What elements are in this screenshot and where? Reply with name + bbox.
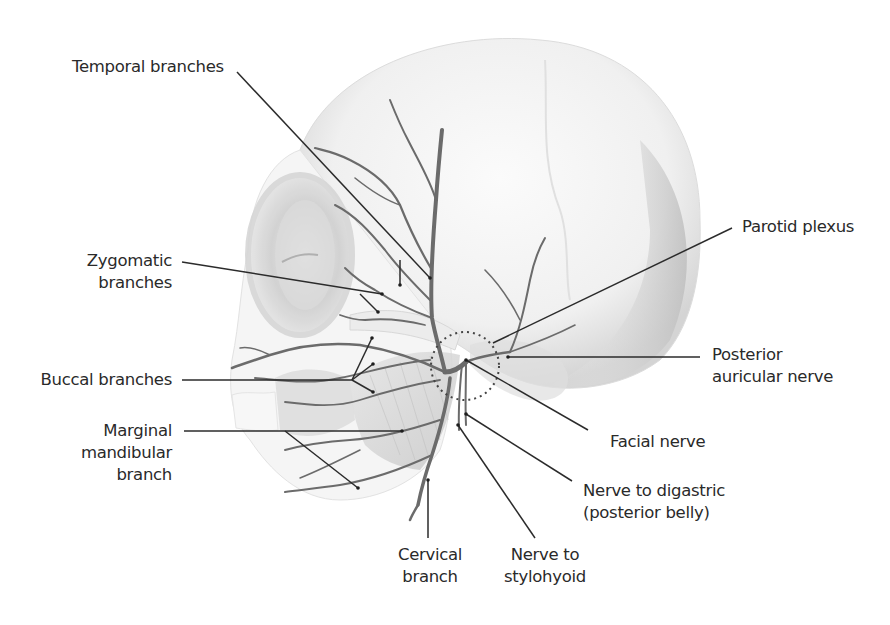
label-cervical-branch: Cervical branch: [380, 544, 480, 588]
teeth: [232, 392, 278, 431]
label-marginal-mandibular-branch: Marginal mandibular branch: [60, 420, 172, 486]
label-facial-nerve: Facial nerve: [610, 431, 705, 453]
facial-nerve-illustration: [0, 0, 890, 625]
label-buccal-branches: Buccal branches: [20, 369, 172, 391]
label-zygomatic-branches: Zygomatic branches: [60, 250, 172, 294]
label-nerve-to-stylohyoid: Nerve to stylohyoid: [490, 544, 600, 588]
nerve-to-stylohyoid: [459, 364, 462, 430]
leader-digastric: [466, 414, 572, 481]
label-temporal-branches: Temporal branches: [72, 56, 224, 78]
label-parotid-plexus: Parotid plexus: [742, 216, 854, 238]
label-posterior-auricular-nerve: Posterior auricular nerve: [712, 344, 833, 388]
label-nerve-to-digastric: Nerve to digastric (posterior belly): [583, 480, 725, 524]
cervical-branch-nerve: [410, 505, 418, 520]
leader-stylohyoid: [458, 425, 535, 538]
